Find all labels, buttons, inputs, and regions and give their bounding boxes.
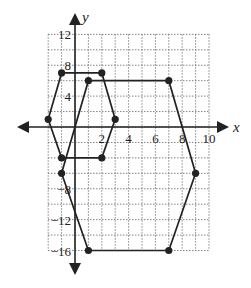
- vertex-point: [85, 247, 92, 254]
- vertex-point: [45, 116, 52, 123]
- vertex-point: [192, 170, 199, 177]
- x-tick-label: 6: [152, 131, 159, 146]
- vertex-point: [98, 69, 105, 76]
- x-axis-right-arrow-icon: [217, 121, 229, 133]
- vertex-point: [98, 154, 105, 161]
- x-tick-label: 2: [99, 131, 106, 146]
- vertex-point: [112, 116, 119, 123]
- y-tick-label: 4: [65, 89, 72, 104]
- vertex-point: [58, 170, 65, 177]
- axes: [17, 13, 229, 275]
- y-tick-label: 12: [58, 27, 71, 42]
- y-axis-up-arrow-icon: [69, 13, 81, 25]
- y-tick-label: −12: [51, 213, 71, 228]
- x-axis-left-arrow-icon: [17, 121, 29, 133]
- vertex-point: [165, 77, 172, 84]
- coordinate-plane: 2468101284−8−12−16 x y: [0, 0, 251, 288]
- hexagon-outline: [62, 81, 196, 251]
- y-tick-label: −16: [51, 244, 72, 259]
- vertex-point: [85, 77, 92, 84]
- hexagon-outline: [48, 73, 115, 158]
- vertex-point: [58, 69, 65, 76]
- x-tick-label: 10: [203, 131, 216, 146]
- vertex-point: [165, 247, 172, 254]
- vertex-point: [58, 154, 65, 161]
- y-axis-down-arrow-icon: [69, 263, 81, 275]
- y-axis-label: y: [80, 9, 89, 25]
- y-tick-label: 8: [65, 58, 72, 73]
- x-tick-label: 4: [125, 131, 132, 146]
- x-axis-label: x: [232, 119, 240, 135]
